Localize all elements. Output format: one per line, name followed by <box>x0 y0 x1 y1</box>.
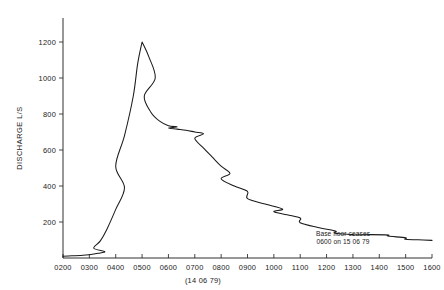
y-tick-label: 200 <box>43 218 56 227</box>
y-axis-ticks: 20040060080010001200 <box>39 38 63 227</box>
base-flow-annotation: Base floor ceases 0600 on 15 06 79 <box>316 230 371 245</box>
x-tick-label: 0500 <box>133 263 150 272</box>
x-tick-label: 1400 <box>371 263 388 272</box>
x-tick-label: 1100 <box>292 263 309 272</box>
x-tick-label: 0700 <box>186 263 203 272</box>
x-axis-date-label: (14 06 79) <box>185 276 221 285</box>
x-tick-label: 1600 <box>423 263 440 272</box>
y-tick-label: 400 <box>43 182 56 191</box>
y-tick-label: 600 <box>43 146 56 155</box>
y-tick-label: 1000 <box>39 74 56 83</box>
annotation-line-1: Base floor ceases <box>316 230 371 237</box>
y-tick-label: 1200 <box>39 38 56 47</box>
x-tick-label: 1500 <box>397 263 414 272</box>
x-tick-label: 1000 <box>265 263 282 272</box>
y-axis-title: DISCHARGE L/S <box>15 106 24 170</box>
x-tick-label: 0400 <box>107 263 124 272</box>
x-tick-label: 0600 <box>160 263 177 272</box>
chart-canvas: 20040060080010001200 DISCHARGE L/S 02000… <box>0 0 444 290</box>
x-tick-label: 0200 <box>54 263 71 272</box>
x-tick-label: 1300 <box>344 263 361 272</box>
x-tick-label: 0300 <box>81 263 98 272</box>
x-axis-group: 0200030004000500060007000800090010001100… <box>54 254 440 285</box>
x-axis-ticks: 0200030004000500060007000800090010001100… <box>54 254 440 272</box>
discharge-curve <box>63 42 432 256</box>
y-axis-group: 20040060080010001200 DISCHARGE L/S <box>15 18 63 258</box>
annotation-line-2: 0600 on 15 06 79 <box>317 238 370 245</box>
x-tick-label: 0900 <box>239 263 256 272</box>
data-series-group <box>63 42 432 256</box>
y-tick-label: 800 <box>43 110 56 119</box>
x-tick-label: 1200 <box>318 263 335 272</box>
x-tick-label: 0800 <box>212 263 229 272</box>
hydrograph-chart: 20040060080010001200 DISCHARGE L/S 02000… <box>0 0 444 290</box>
